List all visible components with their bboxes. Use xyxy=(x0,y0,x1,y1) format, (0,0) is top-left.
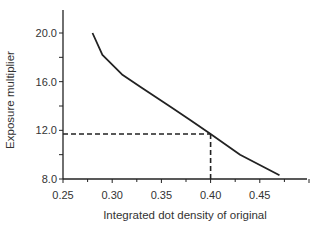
x-tick-label: 0.35 xyxy=(151,189,172,201)
x-axis-label: Integrated dot density of original xyxy=(103,209,267,221)
x-tick-label: 0.40 xyxy=(200,189,221,201)
y-tick-label: 8.0 xyxy=(42,173,57,185)
y-tick-label: 16.0 xyxy=(36,76,57,88)
y-tick-label: 20.0 xyxy=(36,27,57,39)
x-tick-label: 0.25 xyxy=(52,189,73,201)
x-tick-label: 0.30 xyxy=(101,189,122,201)
data-curve xyxy=(93,33,280,175)
plot-area: 0.250.300.350.400.458.012.016.020.0Integ… xyxy=(4,10,309,221)
y-tick-label: 12.0 xyxy=(36,124,57,136)
x-tick-label: 0.45 xyxy=(249,189,270,201)
chart: 0.250.300.350.400.458.012.016.020.0Integ… xyxy=(0,0,319,230)
y-axis-label: Exposure multiplier xyxy=(4,51,16,149)
